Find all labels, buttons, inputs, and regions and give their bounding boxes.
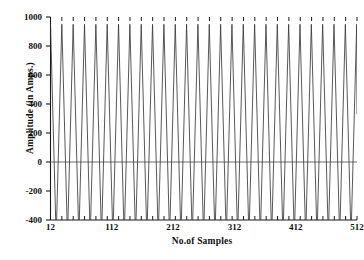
- plot-area: [0, 0, 364, 260]
- waveform-line: [51, 24, 358, 237]
- data-series: [51, 24, 358, 237]
- chart-figure: Amplitude (in Amps.) No.of Samples -400-…: [0, 0, 364, 260]
